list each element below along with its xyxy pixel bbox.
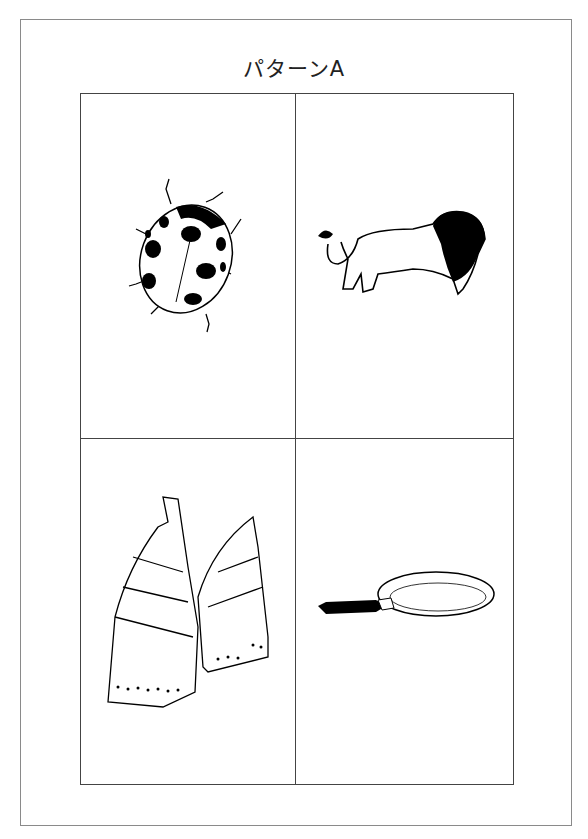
- picture-grid: [80, 93, 514, 785]
- ladybug-icon: [111, 174, 251, 334]
- lion-icon: [313, 204, 493, 304]
- cell-bamboo-shoot: [81, 439, 296, 784]
- frying-pan-icon: [316, 564, 496, 634]
- bamboo-shoot-icon: [103, 487, 273, 717]
- page-title: パターンA: [0, 52, 588, 82]
- cell-frying-pan: [296, 439, 513, 784]
- cell-lion: [296, 94, 513, 439]
- cell-ladybug: [81, 94, 296, 439]
